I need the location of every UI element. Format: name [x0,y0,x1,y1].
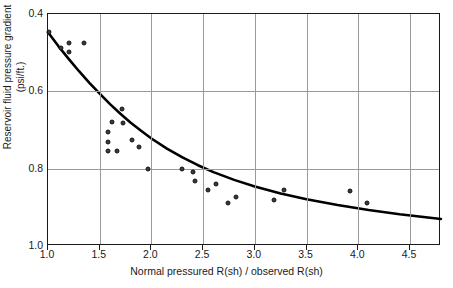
gridline-vertical [203,14,204,244]
y-tick-label: 1.0 [7,239,43,251]
chart-figure: 0.40.60.81.01.01.52.02.53.03.54.04.5 Res… [0,0,453,288]
data-point [105,139,110,144]
data-point [234,194,239,199]
data-point [281,187,286,192]
data-point [146,166,151,171]
trend-line [48,32,441,219]
gridline-vertical [358,14,359,244]
x-tick-label: 4.0 [350,248,365,260]
x-tick-label: 3.0 [247,248,262,260]
gridline-vertical [151,14,152,244]
gridline-vertical [100,14,101,244]
y-tick-label: 0.8 [7,162,43,174]
x-tick-label: 4.5 [402,248,417,260]
gridline-vertical [410,14,411,244]
gridline-horizontal [48,169,439,170]
plot-area [47,13,440,245]
x-axis-title: Normal pressured R(sh) / observed R(sh) [0,265,453,277]
data-point [364,201,369,206]
data-point [347,188,352,193]
data-point [121,121,126,126]
data-point [110,120,115,125]
data-point [225,201,230,206]
data-point [192,179,197,184]
gridline-horizontal [48,91,439,92]
data-point [59,46,64,51]
y-axis-title: Reservoir fluid pressure gradient (psi/f… [1,2,27,152]
x-tick-label: 1.0 [40,248,55,260]
gridline-vertical [307,14,308,244]
data-point [213,182,218,187]
gridline-vertical [255,14,256,244]
data-point [115,149,120,154]
data-point [180,166,185,171]
data-point [105,149,110,154]
x-tick-label: 2.0 [143,248,158,260]
x-tick-label: 2.5 [195,248,210,260]
data-point [47,30,52,35]
data-point [272,198,277,203]
data-point [190,169,195,174]
data-point [66,49,71,54]
data-point [105,129,110,134]
data-point [120,106,125,111]
data-point [137,145,142,150]
x-tick-label: 3.5 [298,248,313,260]
data-point [66,41,71,46]
data-point [82,41,87,46]
data-point [206,187,211,192]
x-tick-label: 1.5 [91,248,106,260]
data-point [129,137,134,142]
